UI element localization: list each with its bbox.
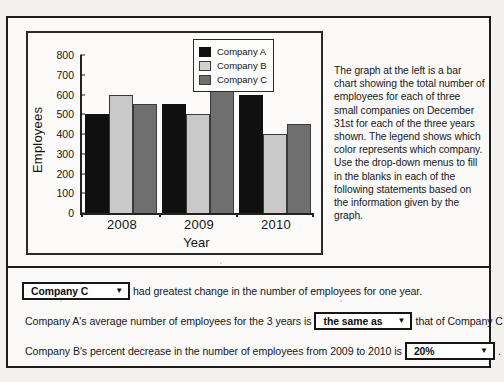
y-axis-tick-300: 300	[56, 149, 74, 160]
plot-wrapper: Employees 0100200300400500600700800 Year…	[28, 33, 321, 253]
x-axis-tick-mark	[159, 213, 161, 217]
bar-company-a-2010	[239, 95, 263, 214]
statement-2-text-after: that of Company C.	[412, 315, 504, 327]
statement-2-text-before: Company A's average number of employees …	[22, 315, 314, 327]
page-frame: Employees 0100200300400500600700800 Year…	[6, 16, 491, 368]
y-axis-title: Employees	[30, 85, 46, 195]
x-axis-tick-mark	[312, 213, 314, 217]
statement-row-1: Company C ▼ had greatest change in the n…	[22, 278, 475, 304]
statement-row-2: Company A's average number of employees …	[22, 308, 475, 334]
statements-section: Company C ▼ had greatest change in the n…	[8, 268, 489, 366]
bar-chart-panel: Employees 0100200300400500600700800 Year…	[26, 31, 323, 255]
y-axis-tick-labels: 0100200300400500600700800	[46, 55, 80, 213]
dropdown-greatest-change[interactable]: Company C ▼	[22, 282, 130, 300]
legend-label: Company A	[217, 46, 266, 57]
legend-item-company-c: Company C	[199, 73, 267, 86]
dropdown-value: the same as	[323, 316, 382, 327]
chart-description-text: The graph at the left is a bar chart sho…	[334, 64, 486, 222]
chevron-down-icon: ▼	[115, 287, 123, 295]
statement-row-3: Company B's percent decrease in the numb…	[22, 338, 475, 364]
dropdown-value: Company C	[31, 286, 88, 297]
statement-3-text-after: .	[495, 345, 504, 357]
y-axis-tick-0: 0	[68, 208, 74, 219]
chevron-down-icon: ▼	[480, 347, 488, 355]
statement-3-text-before: Company B's percent decrease in the numb…	[22, 345, 405, 357]
y-axis-tick-400: 400	[56, 129, 74, 140]
legend-swatch-icon	[199, 61, 211, 71]
upper-content-area: Employees 0100200300400500600700800 Year…	[8, 18, 489, 264]
chevron-down-icon: ▼	[398, 317, 406, 325]
x-axis-title: Year	[81, 235, 312, 250]
y-axis-tick-700: 700	[56, 70, 74, 81]
bar-company-c-2010	[287, 124, 311, 213]
x-axis-tick-2010: 2010	[239, 217, 313, 232]
bar-company-b-2008	[109, 95, 133, 214]
x-axis-tick-mark	[81, 213, 83, 217]
bar-company-b-2010	[263, 134, 287, 213]
y-axis-tick-600: 600	[56, 89, 74, 100]
dropdown-average-comparison[interactable]: the same as ▼	[314, 312, 412, 330]
chart-legend: Company ACompany BCompany C	[193, 39, 274, 92]
legend-item-company-a: Company A	[199, 45, 267, 58]
x-axis-tick-2008: 2008	[85, 217, 159, 232]
legend-item-company-b: Company B	[199, 59, 267, 72]
legend-swatch-icon	[199, 75, 211, 85]
bar-company-c-2008	[133, 104, 157, 213]
bar-group-2008	[85, 55, 157, 213]
y-axis-tick-200: 200	[56, 168, 74, 179]
x-axis-tick-2009: 2009	[162, 217, 236, 232]
dropdown-value: 20%	[414, 346, 435, 357]
bar-company-b-2009	[186, 114, 210, 213]
bar-company-a-2009	[162, 104, 186, 213]
statement-1-text: had greatest change in the number of emp…	[130, 285, 425, 297]
legend-swatch-icon	[199, 47, 211, 57]
y-axis-tick-100: 100	[56, 188, 74, 199]
dropdown-percent-decrease[interactable]: 20% ▼	[405, 342, 495, 360]
x-axis-tick-mark	[236, 213, 238, 217]
y-axis-tick-800: 800	[56, 50, 74, 61]
bar-company-a-2008	[85, 114, 109, 213]
bar-company-c-2009	[210, 85, 234, 213]
y-axis-tick-500: 500	[56, 109, 74, 120]
legend-label: Company B	[217, 60, 267, 71]
legend-label: Company C	[217, 74, 267, 85]
x-axis-line	[80, 213, 312, 215]
